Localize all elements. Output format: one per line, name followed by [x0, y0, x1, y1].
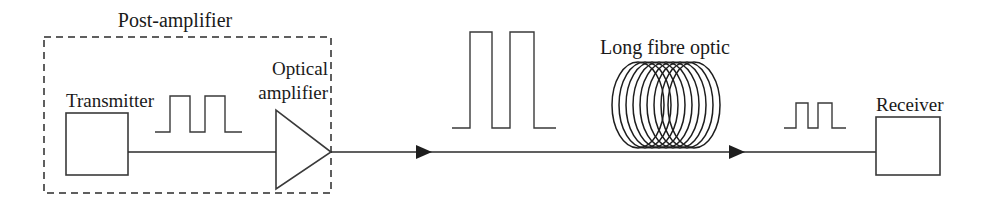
long-fibre-optic-label: Long fibre optic	[600, 36, 730, 59]
post-amplifier-label: Post-amplifier	[118, 9, 233, 32]
optical-amplifier-label-line2: amplifier	[258, 82, 328, 103]
flow-arrow-icon-left	[416, 145, 432, 159]
transmitter-label: Transmitter	[66, 90, 155, 111]
receiver-label: Receiver	[876, 94, 944, 115]
transmitter-box	[66, 113, 128, 175]
fibre-optic-coil	[612, 62, 720, 148]
flow-arrow-icon-right	[729, 145, 745, 159]
fibre-link-diagram: Post-amplifier Transmitter Optical ampli…	[0, 0, 984, 211]
attenuated-pulse-train-waveform	[784, 103, 846, 128]
diagram-canvas: Post-amplifier Transmitter Optical ampli…	[0, 0, 984, 211]
optical-amplifier-triangle	[276, 110, 331, 189]
optical-amplifier-label-line1: Optical	[272, 58, 328, 79]
receiver-box	[876, 117, 940, 175]
amplified-pulse-train-waveform	[452, 32, 556, 128]
input-pulse-train-waveform	[155, 96, 242, 132]
